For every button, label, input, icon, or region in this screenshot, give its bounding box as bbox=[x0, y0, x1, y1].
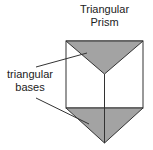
label-line-2: bases bbox=[2, 81, 58, 94]
title-line-1: Triangular bbox=[66, 3, 143, 16]
diagram-title: Triangular Prism bbox=[66, 3, 143, 29]
label-line-1: triangular bbox=[2, 68, 58, 81]
title-line-2: Prism bbox=[66, 16, 143, 29]
bases-label: triangular bases bbox=[2, 68, 58, 94]
triangular-prism-diagram: Triangular Prism triangular bases bbox=[0, 0, 153, 150]
